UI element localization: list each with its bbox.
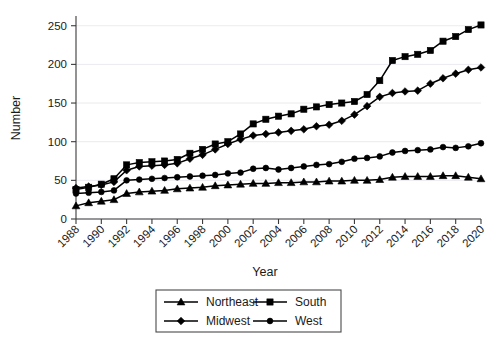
legend-label: West (295, 314, 323, 328)
y-tick-label: 0 (61, 213, 67, 225)
x-tick-label: 2004 (257, 223, 284, 250)
data-point-square (275, 113, 281, 119)
data-point-diamond (275, 129, 283, 137)
x-tick-label: 2014 (384, 223, 411, 250)
chart-canvas: 050100150200250 198819901992199419961998… (0, 0, 493, 343)
x-tick-label: 1990 (80, 223, 107, 250)
line-chart: 050100150200250 198819901992199419961998… (0, 0, 493, 343)
legend-label: South (295, 295, 326, 309)
x-tick-label: 2012 (359, 223, 386, 250)
y-tick-label: 200 (48, 58, 67, 70)
data-point-diamond (414, 87, 422, 95)
data-point-circle (276, 167, 282, 173)
data-point-square (440, 38, 446, 44)
data-point-square (351, 98, 357, 104)
data-point-circle (212, 172, 218, 178)
data-point-square (250, 121, 256, 127)
data-point-circle (453, 145, 459, 151)
x-axis-label: Year (252, 265, 277, 279)
y-axis-ticks: 050100150200250 (48, 20, 76, 225)
data-point-diamond (249, 132, 257, 140)
data-point-circle (377, 153, 383, 159)
data-point-circle (288, 165, 294, 171)
x-tick-label: 2018 (435, 223, 462, 250)
data-point-square (339, 100, 345, 106)
data-point-square (364, 91, 370, 97)
data-point-square (237, 131, 243, 137)
data-point-diamond (325, 121, 333, 129)
data-point-circle (238, 170, 244, 176)
x-tick-label: 1994 (131, 223, 158, 250)
data-point-diamond (338, 117, 346, 125)
data-point-circle (111, 187, 117, 193)
data-point-square (313, 104, 319, 110)
legend-label: Midwest (206, 314, 251, 328)
data-point-square (149, 159, 155, 165)
data-point-circle (174, 174, 180, 180)
data-point-square (263, 116, 269, 122)
x-tick-label: 2002 (232, 223, 259, 250)
data-point-circle (98, 189, 104, 195)
data-point-square (465, 26, 471, 32)
data-point-diamond (313, 122, 321, 130)
x-tick-label: 2008 (308, 223, 335, 250)
data-point-square (187, 150, 193, 156)
data-point-circle (314, 162, 320, 168)
data-point-circle (326, 161, 332, 167)
data-point-circle (301, 164, 307, 170)
data-point-square (478, 22, 484, 28)
data-point-circle (352, 156, 358, 162)
data-point-diamond (439, 75, 447, 83)
data-point-diamond (300, 126, 308, 134)
y-axis-label: Number (9, 96, 23, 140)
data-point-square (389, 57, 395, 63)
data-point-diamond (401, 88, 409, 96)
data-point-circle (225, 170, 231, 176)
x-axis-ticks: 1988199019921994199619982000200220042006… (55, 219, 487, 250)
data-point-circle (149, 176, 155, 182)
data-point-square (174, 156, 180, 162)
data-point-square (124, 162, 130, 168)
data-point-square (326, 101, 332, 107)
data-point-diamond (465, 66, 473, 74)
data-point-square (427, 47, 433, 53)
data-point-circle (263, 165, 269, 171)
data-point-circle (364, 155, 370, 161)
data-point-diamond (427, 80, 435, 88)
x-tick-label: 1992 (105, 223, 132, 250)
data-point-circle (124, 177, 130, 183)
data-point-square (288, 111, 294, 117)
series-northeast (72, 172, 485, 209)
data-point-square (301, 106, 307, 112)
x-tick-label: 1998 (181, 223, 208, 250)
data-point-circle (440, 144, 446, 150)
data-point-square (212, 141, 218, 147)
data-point-circle (136, 177, 142, 183)
data-point-triangle (110, 196, 118, 203)
data-point-circle (415, 147, 421, 153)
data-point-circle (390, 150, 396, 156)
y-tick-label: 250 (48, 20, 67, 32)
data-point-circle (86, 190, 92, 196)
legend-label: Northeast (206, 295, 259, 309)
data-point-square (86, 184, 92, 190)
x-tick-label: 1996 (156, 223, 183, 250)
data-point-square (377, 78, 383, 84)
y-tick-label: 50 (54, 174, 67, 186)
data-point-square (402, 54, 408, 60)
data-point-square (161, 158, 167, 164)
data-point-circle (427, 147, 433, 153)
data-point-square (415, 51, 421, 57)
data-point-circle (402, 148, 408, 154)
data-point-square (225, 139, 231, 145)
data-point-square (136, 159, 142, 165)
data-point-circle (465, 143, 471, 149)
x-tick-label: 2000 (207, 223, 234, 250)
data-point-square (267, 299, 273, 305)
data-point-circle (187, 174, 193, 180)
data-point-diamond (287, 127, 295, 135)
x-tick-label: 2010 (333, 223, 360, 250)
data-point-circle (250, 166, 256, 172)
data-point-square (111, 176, 117, 182)
data-point-square (453, 33, 459, 39)
